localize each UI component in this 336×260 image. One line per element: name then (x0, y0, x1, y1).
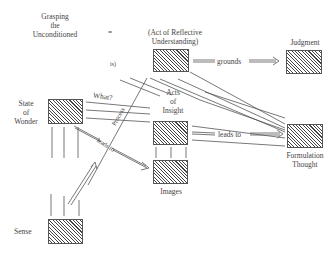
reflective-line-1: (Act of Reflective (140, 28, 210, 37)
reflective-box[interactable] (153, 49, 189, 72)
insight-box[interactable] (153, 121, 188, 145)
grasping-label: Grasping the Unconditioned (25, 12, 85, 39)
equals-sign: = (108, 28, 112, 37)
wonder-line-1: State (8, 99, 44, 108)
wonder-label: State of Wonder (8, 99, 44, 126)
formulation-line-1: Formulation (280, 151, 330, 160)
sense-label: Sense (14, 227, 32, 236)
judgment-box[interactable] (286, 50, 322, 74)
is-label: is) (110, 60, 116, 69)
formulation-line-2: Thought (280, 160, 330, 169)
wonder-box[interactable] (48, 99, 83, 124)
reflective-label: (Act of Reflective Understanding) (140, 28, 210, 46)
grasping-line-1: Grasping (25, 12, 85, 21)
wonder-line-3: Wonder (8, 117, 44, 126)
images-label: Images (155, 187, 187, 196)
grounds-label: grounds (217, 57, 241, 66)
insight-label: Acts of Insight (158, 88, 188, 115)
formulation-box[interactable] (287, 124, 323, 148)
reflective-line-2: Understanding) (140, 37, 210, 46)
judgment-label: Judgment (285, 38, 325, 47)
insight-line-3: Insight (158, 106, 188, 115)
wonder-line-2: of (8, 108, 44, 117)
formulation-label: Formulation Thought (280, 151, 330, 169)
sense-box[interactable] (48, 219, 83, 244)
insight-line-1: Acts (158, 88, 188, 97)
leads-to-formulation-label: leads to (218, 130, 241, 139)
grasping-line-2: the (25, 21, 85, 30)
grasping-line-3: Unconditioned (25, 30, 85, 39)
insight-line-2: of (158, 97, 188, 106)
images-box[interactable] (153, 160, 188, 184)
